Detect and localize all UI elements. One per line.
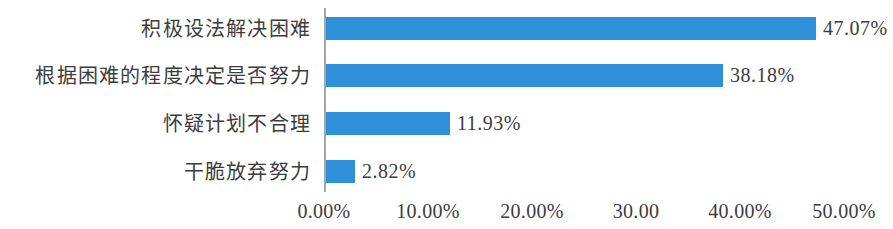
bar-track-1 bbox=[326, 64, 723, 87]
bar-3[interactable] bbox=[326, 160, 355, 183]
x-tick-label-1: 10.00% bbox=[368, 198, 488, 224]
bar-track-3 bbox=[326, 160, 355, 183]
bar-0[interactable] bbox=[326, 17, 816, 40]
bar-row: 根据困难的程度决定是否努力 38.18% bbox=[0, 52, 893, 99]
category-label-0: 积极设法解决困难 bbox=[0, 17, 311, 41]
plot-area: 积极设法解决困难 47.07% 根据困难的程度决定是否努力 38.18% 怀疑计… bbox=[0, 0, 893, 195]
bar-track-0 bbox=[326, 17, 816, 40]
bar-value-label-3: 2.82% bbox=[362, 158, 416, 185]
bar-value-label-0: 47.07% bbox=[823, 15, 888, 42]
bar-2[interactable] bbox=[326, 112, 450, 135]
category-label-1: 根据困难的程度决定是否努力 bbox=[0, 64, 311, 88]
x-tick-label-4: 40.00% bbox=[680, 198, 800, 224]
bar-row: 积极设法解决困难 47.07% bbox=[0, 5, 893, 52]
x-tick-label-2: 20.00% bbox=[472, 198, 592, 224]
x-tick-label-3: 30.00 bbox=[576, 198, 696, 224]
bar-series: 积极设法解决困难 47.07% 根据困难的程度决定是否努力 38.18% 怀疑计… bbox=[0, 0, 893, 195]
category-label-2: 怀疑计划不合理 bbox=[0, 112, 311, 136]
x-axis-tick-labels: 0.00% 10.00% 20.00% 30.00 40.00% 50.00% bbox=[0, 196, 893, 229]
bar-track-2 bbox=[326, 112, 450, 135]
bar-row: 干脆放弃努力 2.82% bbox=[0, 148, 893, 195]
bar-row: 怀疑计划不合理 11.93% bbox=[0, 100, 893, 147]
x-tick-label-5: 50.00% bbox=[784, 198, 893, 224]
category-label-3: 干脆放弃努力 bbox=[0, 160, 311, 184]
bar-value-label-1: 38.18% bbox=[730, 62, 795, 89]
bar-1[interactable] bbox=[326, 64, 723, 87]
bar-chart: 积极设法解决困难 47.07% 根据困难的程度决定是否努力 38.18% 怀疑计… bbox=[0, 0, 893, 229]
x-tick-label-0: 0.00% bbox=[264, 198, 384, 224]
bar-value-label-2: 11.93% bbox=[457, 110, 521, 137]
